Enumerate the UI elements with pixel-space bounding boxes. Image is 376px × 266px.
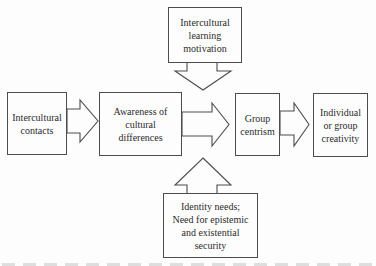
arrow-contacts-to-awareness-icon <box>67 100 98 142</box>
box-group-centrism-label: Group centrism <box>240 112 274 138</box>
flow-diagram: Intercultural learning motivation Interc… <box>0 0 376 266</box>
box-intercultural-contacts: Intercultural contacts <box>7 92 67 155</box>
box-intercultural-contacts-label: Intercultural contacts <box>12 111 61 137</box>
arrow-awareness-to-group-centrism-icon <box>182 103 229 146</box>
box-group-centrism: Group centrism <box>235 93 280 156</box>
arrow-identity-needs-up-icon <box>175 158 231 194</box>
box-intercultural-learning-motivation: Intercultural learning motivation <box>168 7 242 63</box>
box-identity-needs-label: Identity needs; Need for epistemic and e… <box>172 200 248 252</box>
box-awareness-of-cultural-differences-label: Awareness of cultural differences <box>114 105 168 144</box>
arrow-group-centrism-to-creativity-icon <box>280 103 309 146</box>
box-individual-or-group-creativity: Individual or group creativity <box>313 93 368 157</box>
box-intercultural-learning-motivation-label: Intercultural learning motivation <box>180 16 229 55</box>
arrow-motivation-down-icon <box>175 63 231 91</box>
box-awareness-of-cultural-differences: Awareness of cultural differences <box>99 92 182 156</box>
box-identity-needs: Identity needs; Need for epistemic and e… <box>163 193 258 258</box>
box-individual-or-group-creativity-label: Individual or group creativity <box>320 106 361 145</box>
